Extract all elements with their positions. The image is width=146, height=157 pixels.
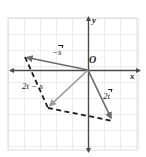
two-t-symbol: t bbox=[108, 92, 111, 101]
vector-2t-minus-s-label: 2t − s bbox=[22, 82, 43, 91]
vector-diagram-figure: O x y −s 2t 2t − s bbox=[0, 0, 146, 157]
vector-2t-label: 2t bbox=[103, 92, 110, 101]
x-axis-label: x bbox=[130, 72, 135, 81]
combo-coefficient: 2t − s bbox=[22, 81, 43, 91]
origin-label: O bbox=[89, 55, 96, 65]
diagram-canvas bbox=[0, 0, 146, 157]
neg-s-symbol: s bbox=[58, 48, 62, 57]
y-axis-label: y bbox=[92, 16, 96, 25]
vector-neg-s-label: −s bbox=[52, 48, 62, 57]
